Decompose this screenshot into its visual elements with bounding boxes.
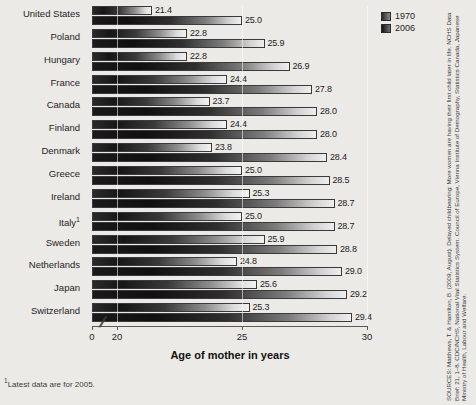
bar-value-label: 28.0 — [320, 130, 337, 139]
bar-2006 — [92, 153, 327, 162]
bar-value-label: 23.8 — [215, 143, 232, 152]
footnote-text: Latest data are for 2005. — [8, 380, 95, 389]
bar-rows: 21.425.022.825.922.826.924.427.823.728.0… — [92, 6, 367, 326]
bar-value-label: 25.9 — [268, 39, 285, 48]
legend-swatch-1970-icon — [381, 12, 391, 21]
category-label: France — [50, 78, 80, 88]
bar-1970 — [92, 143, 212, 152]
category-label: Sweden — [46, 238, 80, 248]
bar-row: 25.028.7 — [92, 212, 367, 232]
bar-row: 25.329.4 — [92, 303, 367, 323]
bar-row: 22.826.9 — [92, 52, 367, 72]
bar-value-label: 25.0 — [245, 16, 262, 25]
bar-row: 25.928.8 — [92, 235, 367, 255]
bar-value-label: 25.3 — [253, 303, 270, 312]
category-label: United States — [23, 9, 80, 19]
legend-item-1970: 1970 — [381, 10, 415, 22]
category-label: Ireland — [51, 192, 80, 202]
bar-value-label: 22.8 — [190, 52, 207, 61]
bar-1970 — [92, 75, 227, 84]
bar-value-label: 25.0 — [245, 166, 262, 175]
bar-value-label: 25.6 — [260, 280, 277, 289]
x-axis-line — [92, 326, 368, 327]
category-label: Netherlands — [29, 260, 80, 270]
bar-chart: United StatesPolandHungaryFranceCanadaFi… — [0, 0, 476, 405]
x-axis-tick-label: 20 — [112, 332, 123, 342]
category-label: Hungary — [44, 55, 80, 65]
x-axis-tick — [242, 326, 243, 330]
x-axis-tick — [92, 326, 93, 330]
bar-value-label: 24.4 — [230, 120, 247, 129]
bar-2006 — [92, 290, 347, 299]
bar-value-label: 29.2 — [350, 290, 367, 299]
category-label: Finland — [49, 123, 80, 133]
bar-row: 24.427.8 — [92, 75, 367, 95]
legend-swatch-2006-icon — [381, 24, 391, 33]
bar-value-label: 28.5 — [333, 176, 350, 185]
bar-row: 25.028.5 — [92, 166, 367, 186]
bar-2006 — [92, 176, 330, 185]
bar-2006 — [92, 313, 352, 322]
bar-value-label: 25.0 — [245, 212, 262, 221]
bar-2006 — [92, 245, 337, 254]
sources-text: SOURCES: Matthews, T. & Hamilton, B. (20… — [445, 3, 468, 401]
x-axis-tick — [367, 326, 368, 330]
bar-row: 25.629.2 — [92, 280, 367, 300]
gridline — [367, 6, 368, 326]
x-axis-tick — [117, 326, 118, 330]
bar-value-label: 24.4 — [230, 75, 247, 84]
sources-note: SOURCES: Matthews, T. & Hamilton, B. (20… — [437, 0, 476, 405]
bar-1970 — [92, 166, 242, 175]
bar-1970 — [92, 29, 187, 38]
x-axis-title: Age of mother in years — [92, 349, 368, 361]
plot-area: 21.425.022.825.922.826.924.427.823.728.0… — [92, 6, 367, 326]
bar-2006 — [92, 130, 317, 139]
bar-1970 — [92, 97, 210, 106]
bar-row: 25.328.7 — [92, 189, 367, 209]
bar-2006 — [92, 16, 242, 25]
gridline — [242, 6, 243, 326]
bar-value-label: 26.9 — [293, 62, 310, 71]
bar-2006 — [92, 85, 312, 94]
category-label: Italy1 — [59, 215, 80, 228]
bar-2006 — [92, 62, 290, 71]
bar-value-label: 28.7 — [338, 199, 355, 208]
bar-2006 — [92, 199, 335, 208]
bar-value-label: 27.8 — [315, 85, 332, 94]
gridline — [117, 6, 118, 326]
bar-1970 — [92, 212, 242, 221]
bar-value-label: 28.7 — [338, 222, 355, 231]
bar-1970 — [92, 52, 187, 61]
bar-1970 — [92, 120, 227, 129]
category-axis-labels: United StatesPolandHungaryFranceCanadaFi… — [0, 6, 86, 326]
bar-row: 24.428.0 — [92, 120, 367, 140]
bar-2006 — [92, 267, 342, 276]
legend-item-2006: 2006 — [381, 22, 415, 34]
category-label: Switzerland — [31, 306, 80, 316]
bar-value-label: 29.0 — [345, 267, 362, 276]
category-label: Canada — [47, 100, 80, 110]
legend-label-2006: 2006 — [395, 22, 415, 34]
category-footnote-marker: 1 — [76, 216, 80, 223]
bar-1970 — [92, 189, 250, 198]
bar-1970 — [92, 6, 152, 15]
category-label: Greece — [49, 169, 80, 179]
bar-value-label: 21.4 — [155, 6, 172, 15]
x-axis-tick-label: 30 — [362, 332, 373, 342]
bar-1970 — [92, 303, 250, 312]
bar-2006 — [92, 107, 317, 116]
legend: 1970 2006 — [381, 10, 415, 34]
bar-value-label: 28.0 — [320, 107, 337, 116]
bar-row: 23.828.4 — [92, 143, 367, 163]
bar-value-label: 25.9 — [268, 235, 285, 244]
bar-2006 — [92, 222, 335, 231]
x-axis-tick-label: 0 — [89, 332, 94, 342]
bar-1970 — [92, 257, 237, 266]
bar-value-label: 29.4 — [355, 313, 372, 322]
bar-row: 22.825.9 — [92, 29, 367, 49]
bar-value-label: 23.7 — [213, 97, 230, 106]
category-label: Poland — [50, 32, 80, 42]
legend-label-1970: 1970 — [395, 10, 415, 22]
bar-value-label: 28.8 — [340, 245, 357, 254]
bar-value-label: 25.3 — [253, 189, 270, 198]
